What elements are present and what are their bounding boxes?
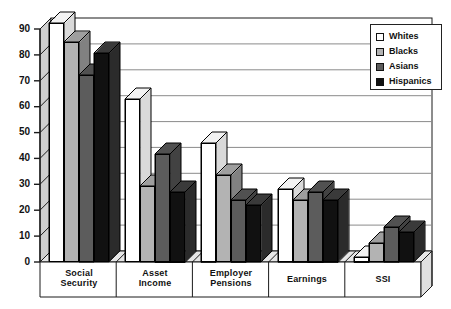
bar-social-security-hispanics <box>94 42 120 262</box>
legend-entry-hispanics: Hispanics <box>376 74 437 89</box>
bar-employer-pensions-hispanics <box>246 194 272 262</box>
category-label-line: Pensions <box>196 278 266 288</box>
legend-swatch-hispanics <box>376 78 384 86</box>
legend-swatch-blacks <box>376 48 384 56</box>
category-label-line: Asset <box>120 268 190 278</box>
bar-outline <box>323 189 349 263</box>
bar-ssi-hispanics <box>399 221 425 262</box>
category-label-earnings: Earnings <box>272 274 342 284</box>
category-label-ssi: SSI <box>348 274 418 284</box>
legend-swatch-asians <box>376 63 384 71</box>
legend-swatch-whites <box>376 33 384 41</box>
category-label-asset-income: Asset Income <box>120 268 190 288</box>
legend-label-whites: Whites <box>389 32 419 41</box>
legend-entry-asians: Asians <box>376 59 437 74</box>
category-label-line: Social <box>44 268 114 278</box>
bar-earnings-hispanics <box>323 189 349 262</box>
chart-plot-area: 0 10 20 30 40 50 60 70 80 90 Social Secu… <box>0 0 451 309</box>
category-label-line: SSI <box>348 274 418 284</box>
chart-screenshot: 0 10 20 30 40 50 60 70 80 90 Social Secu… <box>0 0 451 309</box>
legend-label-asians: Asians <box>389 62 419 71</box>
category-label-line: Security <box>44 278 114 288</box>
bar-outline <box>94 42 120 263</box>
category-label-employer-pensions: Employer Pensions <box>196 268 266 288</box>
chart-legend: Whites Blacks Asians Hispanics <box>370 24 442 90</box>
legend-label-hispanics: Hispanics <box>389 77 432 86</box>
category-label-line: Employer <box>196 268 266 278</box>
legend-label-blacks: Blacks <box>389 47 418 56</box>
category-label-line: Income <box>120 278 190 288</box>
bar-outline <box>170 181 196 263</box>
category-label-social-security: Social Security <box>44 268 114 288</box>
bar-outline <box>246 194 272 263</box>
bar-outline <box>399 221 425 263</box>
legend-entry-blacks: Blacks <box>376 44 437 59</box>
category-label-line: Earnings <box>272 274 342 284</box>
bar-asset-income-hispanics <box>170 181 196 262</box>
legend-entry-whites: Whites <box>376 29 437 44</box>
